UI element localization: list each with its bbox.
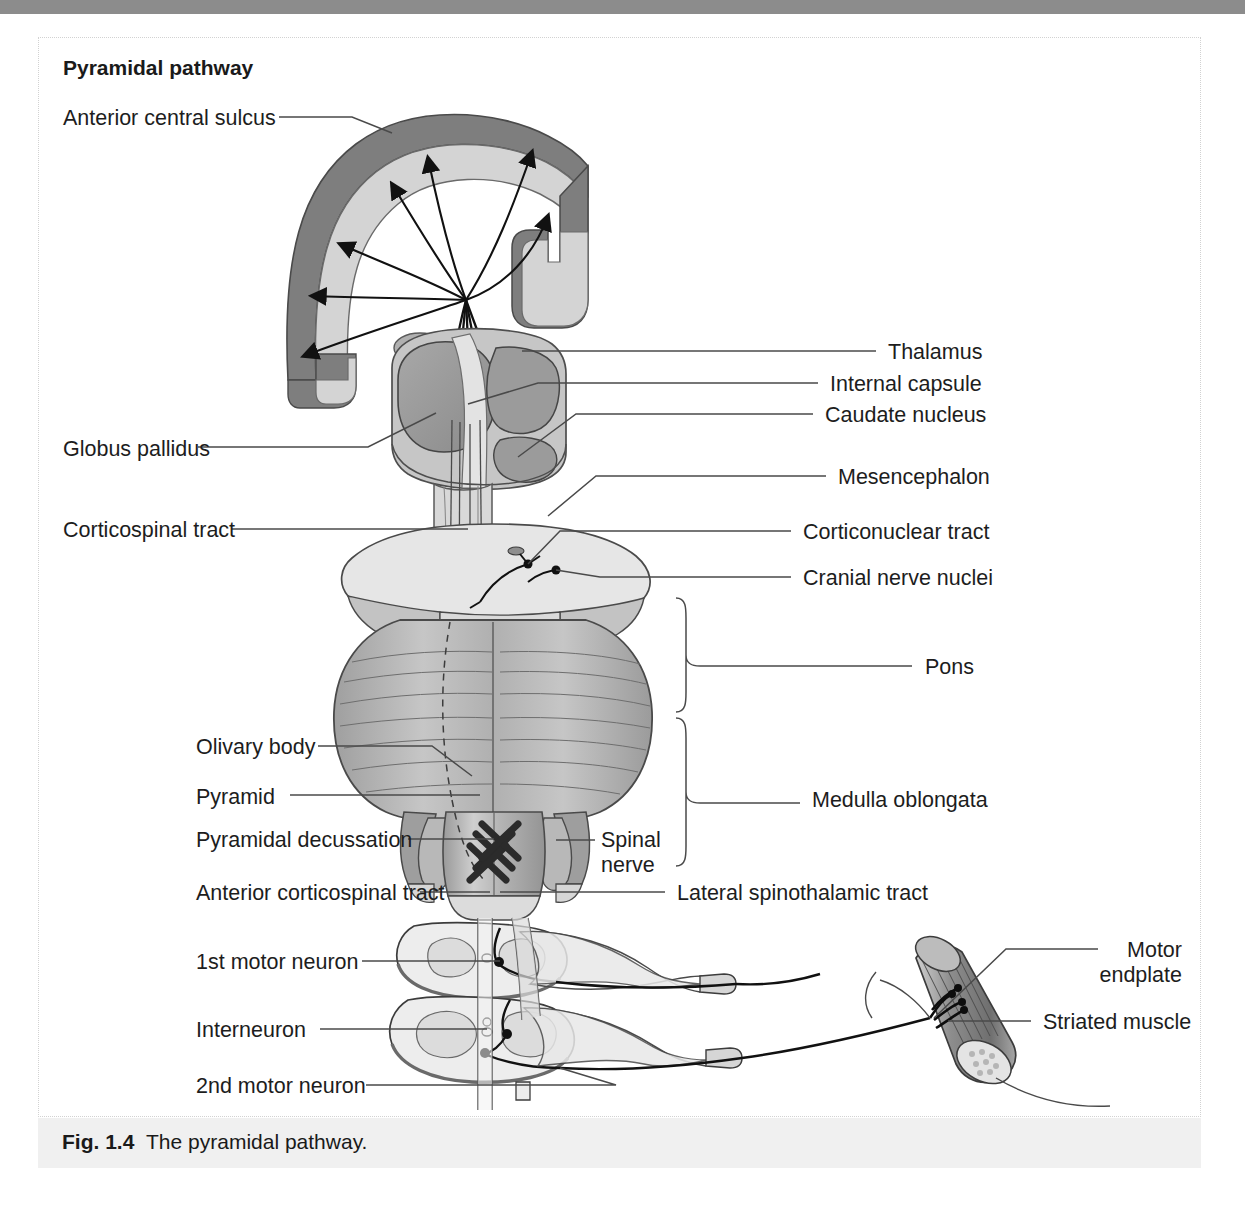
label-lateral-spinothalamic-tract: Lateral spinothalamic tract <box>677 881 928 906</box>
figure-page: Pyramidal pathway <box>0 0 1245 1211</box>
figure-title: Pyramidal pathway <box>63 56 253 80</box>
label-spinal-nerve-line1: Spinal <box>601 828 661 852</box>
label-corticonuclear-tract: Corticonuclear tract <box>803 520 989 545</box>
label-caudate-nucleus: Caudate nucleus <box>825 403 986 428</box>
label-motor-endplate: Motor endplate <box>1000 938 1182 989</box>
figure-caption: Fig. 1.4 The pyramidal pathway. <box>62 1130 367 1154</box>
label-pons: Pons <box>925 655 974 680</box>
label-motor-endplate-line2: endplate <box>1100 963 1183 987</box>
label-striated-muscle: Striated muscle <box>1043 1010 1191 1035</box>
label-1st-motor-neuron: 1st motor neuron <box>196 950 359 975</box>
label-spinal-nerve: Spinal nerve <box>601 828 661 879</box>
label-thalamus: Thalamus <box>888 340 982 365</box>
label-interneuron: Interneuron <box>196 1018 306 1043</box>
label-anterior-corticospinal-tract: Anterior corticospinal tract <box>196 881 445 906</box>
label-motor-endplate-line1: Motor <box>1127 938 1182 962</box>
label-anterior-central-sulcus: Anterior central sulcus <box>63 106 276 131</box>
label-2nd-motor-neuron: 2nd motor neuron <box>196 1074 366 1099</box>
figure-caption-number: Fig. 1.4 <box>62 1130 134 1153</box>
label-medulla-oblongata: Medulla oblongata <box>812 788 988 813</box>
label-spinal-nerve-line2: nerve <box>601 853 655 877</box>
label-cranial-nerve-nuclei: Cranial nerve nuclei <box>803 566 993 591</box>
label-mesencephalon: Mesencephalon <box>838 465 990 490</box>
label-olivary-body: Olivary body <box>196 735 316 760</box>
label-globus-pallidus: Globus pallidus <box>63 437 210 462</box>
figure-caption-body: The pyramidal pathway. <box>146 1130 367 1153</box>
page-top-band <box>0 0 1245 14</box>
label-internal-capsule: Internal capsule <box>830 372 982 397</box>
label-pyramid: Pyramid <box>196 785 275 810</box>
label-pyramidal-decussation: Pyramidal decussation <box>196 828 412 853</box>
label-corticospinal-tract: Corticospinal tract <box>63 518 235 543</box>
